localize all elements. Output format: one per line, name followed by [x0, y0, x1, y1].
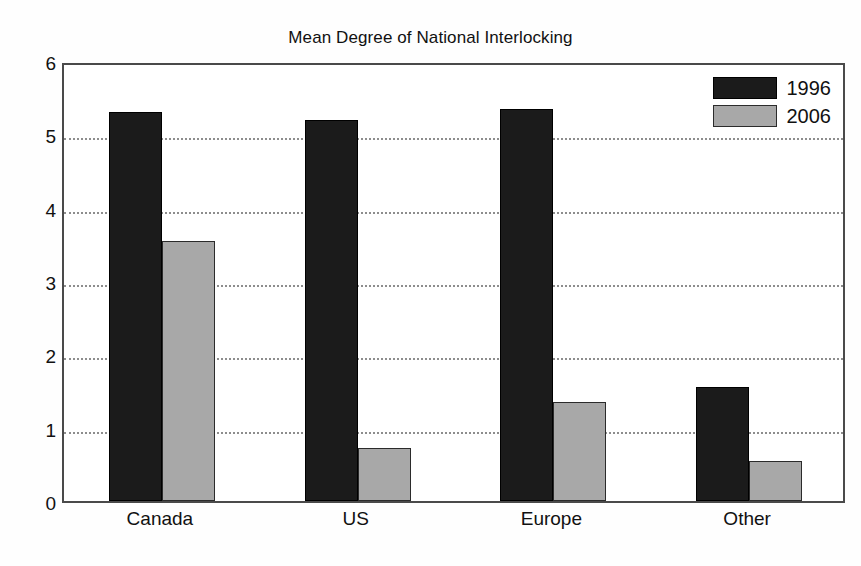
chart-figure: Mean Degree of National Interlocking 012… [0, 0, 861, 566]
y-axis-tick-label: 2 [12, 347, 56, 366]
x-axis-tick-label-europe: Europe [521, 508, 582, 530]
bar-other-2006[interactable] [749, 461, 802, 501]
bar-other-1996[interactable] [696, 387, 749, 501]
bar-group [109, 65, 215, 501]
x-axis-tick-label-canada: Canada [127, 508, 194, 530]
bars-layer [64, 65, 843, 501]
bar-us-2006[interactable] [358, 448, 411, 501]
bar-canada-2006[interactable] [162, 241, 215, 501]
y-axis-tick-label: 3 [12, 274, 56, 293]
y-axis-tick-label: 0 [12, 494, 56, 513]
bar-group [305, 65, 411, 501]
bar-canada-1996[interactable] [109, 112, 162, 501]
x-axis-tick-label-other: Other [723, 508, 771, 530]
legend-label-2006: 2006 [787, 106, 832, 126]
y-axis-tick-labels: 0123456 [4, 63, 56, 503]
plot-area: 19962006 [62, 63, 845, 503]
legend-label-1996: 1996 [787, 78, 832, 98]
legend-item-1996[interactable]: 1996 [713, 77, 832, 99]
x-axis-tick-label-us: US [342, 508, 368, 530]
bar-group [696, 65, 802, 501]
y-axis-tick-label: 5 [12, 127, 56, 146]
legend-swatch-1996 [713, 77, 777, 99]
chart-title: Mean Degree of National Interlocking [0, 28, 861, 48]
bar-europe-2006[interactable] [553, 402, 606, 501]
chart-legend: 19962006 [713, 77, 832, 127]
bar-us-1996[interactable] [305, 120, 358, 501]
y-axis-tick-label: 1 [12, 420, 56, 439]
legend-item-2006[interactable]: 2006 [713, 105, 832, 127]
bar-group [500, 65, 606, 501]
y-axis-tick-label: 4 [12, 200, 56, 219]
bar-europe-1996[interactable] [500, 109, 553, 501]
legend-swatch-2006 [713, 105, 777, 127]
y-axis-tick-label: 6 [12, 54, 56, 73]
x-axis-tick-labels: CanadaUSEuropeOther [62, 508, 845, 538]
